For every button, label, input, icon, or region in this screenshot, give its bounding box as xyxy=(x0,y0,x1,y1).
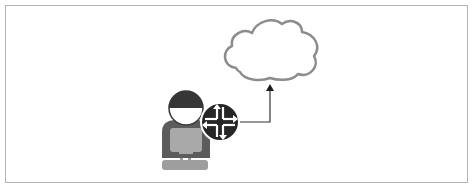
cloud-icon xyxy=(225,20,317,80)
arrowhead-icon xyxy=(266,84,274,91)
connector-router-to-cloud xyxy=(239,84,274,122)
router-icon xyxy=(201,103,239,141)
network-diagram xyxy=(0,0,475,191)
